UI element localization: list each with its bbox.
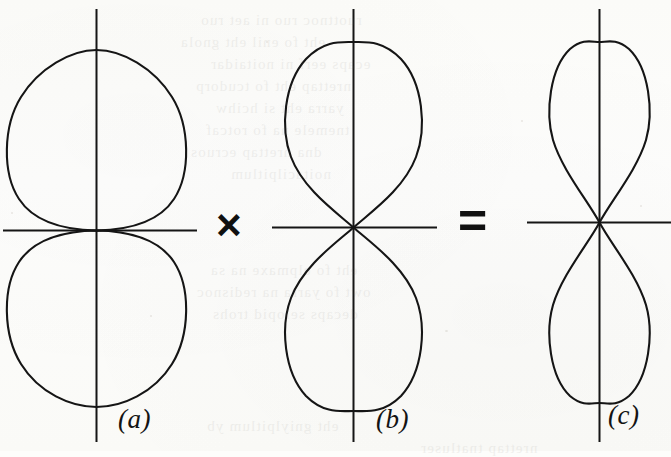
panel-c-caption: (c) (608, 400, 639, 431)
scan-bleed-artifact: noitacilpitlum (230, 166, 331, 183)
scan-bleed-artifact: nrettap eht fo tcudorp (195, 78, 351, 95)
scan-bleed-artifact: ecaps eerf ni noitaidar (210, 56, 370, 73)
equals-operator: = (458, 196, 487, 246)
scan-bleed-artifact: eht fo enil eht gnola (180, 34, 325, 51)
scan-speck (521, 120, 523, 122)
scan-speck (445, 330, 448, 332)
scan-bleed-artifact: owt fo yarra na redisnoc (196, 284, 371, 301)
scan-bleed-artifact: dna nrettap ecruos (190, 144, 322, 161)
scan-bleed-artifact: eht fo elpmaxe na sa (210, 262, 357, 279)
scan-speck (150, 315, 152, 317)
scan-bleed-artifact: ruottnoc ruo ni aet ruo (200, 12, 362, 29)
panel-b (272, 9, 437, 442)
scan-bleed-artifact: decaps selopid trohs (212, 306, 358, 323)
scan-bleed-artifact: yarra eht si hcihw (215, 100, 344, 117)
scan-speck (11, 212, 13, 214)
scan-bleed-artifact: eht gniylpitlum yb (206, 418, 338, 435)
panel-a (3, 9, 197, 442)
multiplication-operator: × (216, 203, 242, 247)
scan-speck (266, 41, 268, 43)
scan-bleed-artifact: tnemele na fo rotcaf (205, 122, 349, 139)
scan-speck (640, 205, 642, 207)
panel-b-caption: (b) (376, 404, 409, 435)
panel-c (527, 9, 671, 442)
panel-a-caption: (a) (118, 404, 151, 435)
scan-bleed-artifact: nrettap tnatluser (420, 440, 537, 457)
